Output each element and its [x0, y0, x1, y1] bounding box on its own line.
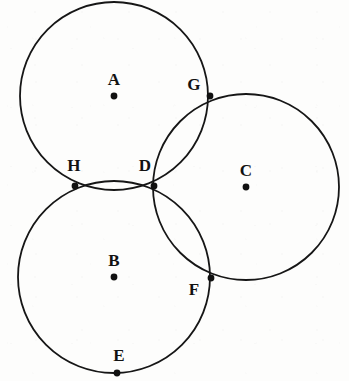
- point-marker-h: [72, 183, 79, 190]
- point-label-a: A: [108, 71, 120, 88]
- point-label-f: F: [189, 281, 200, 298]
- circles-group: [18, 2, 339, 373]
- points-group: [72, 93, 250, 377]
- point-marker-d: [151, 183, 158, 190]
- point-label-b: B: [108, 252, 120, 269]
- point-marker-b: [111, 274, 118, 281]
- geometry-figure: A B C D E F G H: [0, 0, 349, 381]
- point-label-d: D: [139, 157, 151, 174]
- point-label-c: C: [240, 162, 252, 179]
- point-marker-c: [243, 184, 250, 191]
- point-label-e: E: [113, 347, 125, 364]
- point-marker-g: [207, 93, 214, 100]
- point-label-h: H: [67, 157, 80, 174]
- geometry-canvas: [0, 0, 349, 381]
- point-marker-e: [114, 370, 121, 377]
- point-marker-a: [111, 93, 118, 100]
- point-marker-f: [208, 275, 215, 282]
- point-label-g: G: [187, 76, 200, 93]
